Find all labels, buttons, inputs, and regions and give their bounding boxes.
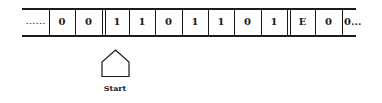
tape-diagram: …… 0 0 1 1 0 1 1 0 1 E 0 0... Start [0,0,382,103]
read-head-pentagon-icon [0,0,382,103]
start-label: Start [100,83,130,93]
